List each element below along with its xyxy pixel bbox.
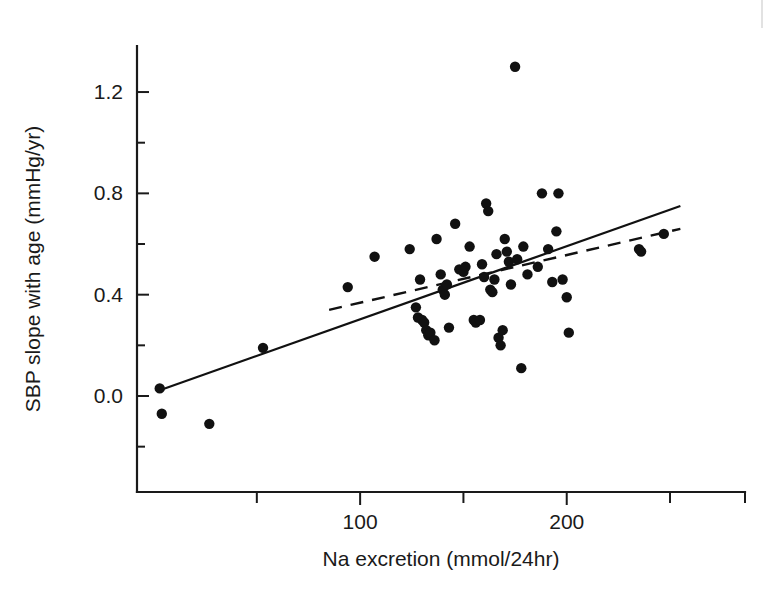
data-point — [497, 325, 507, 335]
data-point — [491, 249, 501, 259]
data-point — [551, 226, 561, 236]
data-point — [487, 287, 497, 297]
x-tick-label: 200 — [549, 510, 584, 533]
data-point — [444, 322, 454, 332]
data-point — [533, 262, 543, 272]
data-point — [431, 234, 441, 244]
data-point — [450, 219, 460, 229]
x-axis-title: Na excretion (mmol/24hr) — [323, 547, 560, 570]
data-point — [557, 274, 567, 284]
y-axis-ticks — [137, 92, 149, 447]
data-point — [475, 315, 485, 325]
data-point — [500, 234, 510, 244]
data-point — [343, 282, 353, 292]
data-point — [502, 246, 512, 256]
data-point — [411, 302, 421, 312]
data-point — [479, 272, 489, 282]
data-point — [553, 188, 563, 198]
data-point — [204, 419, 214, 429]
y-tick-label: 0.8 — [94, 181, 123, 204]
data-point — [518, 241, 528, 251]
data-point — [477, 259, 487, 269]
data-point — [516, 363, 526, 373]
plot-canvas: 0.00.40.81.2 100200 Na excretion (mmol/2… — [0, 0, 766, 600]
data-points — [155, 62, 670, 430]
regression-lines — [158, 206, 681, 391]
data-point — [562, 292, 572, 302]
y-tick-label: 1.2 — [94, 80, 123, 103]
scatter-plot-figure: 0.00.40.81.2 100200 Na excretion (mmol/2… — [0, 0, 766, 600]
x-tick-label: 100 — [343, 510, 378, 533]
solid-regression-line — [158, 206, 681, 391]
data-point — [543, 244, 553, 254]
data-point — [564, 327, 574, 337]
data-point — [510, 62, 520, 72]
data-point — [522, 269, 532, 279]
data-point — [440, 289, 450, 299]
data-point — [405, 244, 415, 254]
data-point — [258, 343, 268, 353]
data-point — [547, 277, 557, 287]
y-tick-label: 0.4 — [94, 283, 124, 306]
data-point — [157, 409, 167, 419]
data-point — [442, 279, 452, 289]
x-axis-ticks — [257, 492, 745, 505]
data-point — [483, 206, 493, 216]
data-point — [415, 274, 425, 284]
axes-frame — [137, 46, 745, 492]
data-point — [436, 269, 446, 279]
data-point — [369, 251, 379, 261]
y-axis-tick-labels: 0.00.40.81.2 — [94, 80, 124, 407]
data-point — [537, 188, 547, 198]
data-point — [495, 340, 505, 350]
data-point — [464, 241, 474, 251]
data-point — [460, 262, 470, 272]
data-point — [636, 246, 646, 256]
data-point — [512, 254, 522, 264]
y-axis-title: SBP slope with age (mmHg/yr) — [21, 126, 44, 413]
x-axis-tick-labels: 100200 — [343, 510, 585, 533]
data-point — [489, 274, 499, 284]
y-tick-label: 0.0 — [94, 384, 123, 407]
data-point — [506, 279, 516, 289]
data-point — [429, 335, 439, 345]
data-point — [155, 383, 165, 393]
data-point — [659, 229, 669, 239]
